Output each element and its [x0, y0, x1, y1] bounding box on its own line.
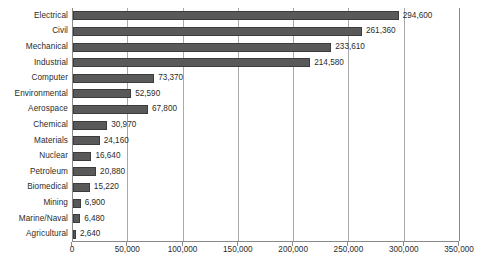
- category-label: Mechanical: [0, 42, 68, 51]
- category-label: Civil: [0, 26, 68, 35]
- bar: [73, 152, 91, 161]
- bar: [73, 136, 100, 145]
- category-label: Petroleum: [0, 167, 68, 176]
- bar-value-label: 2,640: [77, 229, 101, 238]
- bar-value-label: 16,640: [92, 151, 120, 160]
- x-axis-tick-mark: [403, 242, 404, 246]
- category-label: Aerospace: [0, 104, 68, 113]
- category-label: Mining: [0, 198, 68, 207]
- bar-value-label: 15,220: [91, 182, 119, 191]
- x-axis-tick-label: 200,000: [278, 245, 308, 254]
- bar-value-label: 67,800: [149, 104, 177, 113]
- plot-area: 294,600261,360233,610214,58073,37052,590…: [72, 8, 459, 242]
- x-axis-tick-label: 250,000: [334, 245, 364, 254]
- x-axis-tick-mark: [237, 242, 238, 246]
- category-label: Environmental: [0, 89, 68, 98]
- category-label: Computer: [0, 73, 68, 82]
- x-axis-tick-mark: [126, 242, 127, 246]
- bar-value-label: 6,480: [81, 214, 105, 223]
- category-label: Electrical: [0, 11, 68, 20]
- category-axis: ElectricalCivilMechanicalIndustrialCompu…: [0, 8, 68, 242]
- category-label: Chemical: [0, 120, 68, 129]
- bar-value-label: 24,160: [101, 136, 129, 145]
- x-axis-tick-mark: [71, 242, 72, 246]
- bar: [73, 11, 399, 20]
- bar-chart: ElectricalCivilMechanicalIndustrialCompu…: [0, 0, 488, 274]
- category-label: Nuclear: [0, 151, 68, 160]
- gridline: [404, 8, 405, 241]
- bar: [73, 183, 90, 192]
- gridline: [459, 8, 460, 241]
- x-axis-tick-label: 300,000: [389, 245, 419, 254]
- x-axis-tick-mark: [292, 242, 293, 246]
- bar-value-label: 73,370: [155, 73, 183, 82]
- x-axis-tick-mark: [347, 242, 348, 246]
- value-axis: 050,000100,000150,000200,000250,000300,0…: [0, 245, 488, 259]
- category-label: Biomedical: [0, 182, 68, 191]
- bar-value-label: 52,590: [132, 89, 160, 98]
- bar-value-label: 20,880: [97, 167, 125, 176]
- bar-value-label: 30,970: [108, 120, 136, 129]
- bar: [73, 27, 362, 36]
- bar: [73, 74, 154, 83]
- bar-value-label: 214,580: [311, 58, 344, 67]
- category-label: Industrial: [0, 58, 68, 67]
- bar: [73, 167, 96, 176]
- x-axis-tick-mark: [458, 242, 459, 246]
- bar-value-label: 233,610: [332, 42, 365, 51]
- x-axis-tick-label: 100,000: [168, 245, 198, 254]
- category-label: Materials: [0, 136, 68, 145]
- x-axis-tick-label: 150,000: [223, 245, 253, 254]
- bar: [73, 105, 148, 114]
- bar: [73, 89, 131, 98]
- bar-value-label: 261,360: [363, 26, 396, 35]
- category-label: Marine/Naval: [0, 214, 68, 223]
- bar: [73, 58, 310, 67]
- bar: [73, 121, 107, 130]
- bar: [73, 214, 80, 223]
- x-axis-tick-label: 0: [70, 245, 75, 254]
- x-axis-tick-mark: [182, 242, 183, 246]
- bar-value-label: 6,900: [82, 198, 106, 207]
- bar-value-label: 294,600: [400, 11, 433, 20]
- bar: [73, 43, 331, 52]
- bar: [73, 230, 76, 239]
- x-axis-tick-label: 50,000: [115, 245, 140, 254]
- bar: [73, 199, 81, 208]
- category-label: Agricultural: [0, 229, 68, 238]
- x-axis-tick-label: 350,000: [444, 245, 474, 254]
